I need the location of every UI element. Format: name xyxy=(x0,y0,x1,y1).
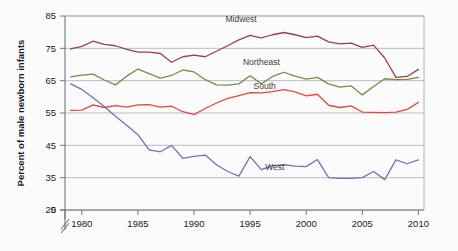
x-tick-label-2005: 2005 xyxy=(352,218,373,229)
y-tick-label-45: 45 xyxy=(45,140,56,151)
series-line-south xyxy=(71,90,419,115)
y-tick-label-55: 55 xyxy=(45,107,56,118)
series-line-west xyxy=(71,84,419,180)
series-label-south: South xyxy=(254,81,276,91)
y-tick-label-25: 25 xyxy=(45,204,56,215)
x-tick-label-1985: 1985 xyxy=(127,218,148,229)
x-tick-label-2000: 2000 xyxy=(296,218,317,229)
chart-container: 0253545556575851980198519901995200020052… xyxy=(0,0,458,251)
y-tick-label-65: 65 xyxy=(45,75,56,86)
gridlines-group xyxy=(65,16,424,210)
y-axis-title-group: Percent of male newborn infants xyxy=(15,40,26,187)
x-tick-label-1990: 1990 xyxy=(183,218,204,229)
x-tick-label-2010: 2010 xyxy=(408,218,429,229)
series-label-northeast: Northeast xyxy=(243,57,280,67)
data-series-group xyxy=(71,32,419,179)
line-chart: 0253545556575851980198519901995200020052… xyxy=(0,0,458,251)
series-label-midwest: Midwest xyxy=(226,14,258,24)
y-tick-label-85: 85 xyxy=(45,10,56,21)
series-label-west: West xyxy=(265,162,285,172)
y-axis-title: Percent of male newborn infants xyxy=(15,40,26,187)
tick-labels-group: 0253545556575851980198519901995200020052… xyxy=(45,10,429,229)
y-tick-label-75: 75 xyxy=(45,43,56,54)
x-tick-label-1995: 1995 xyxy=(240,218,261,229)
y-tick-label-35: 35 xyxy=(45,172,56,183)
x-tick-label-1980: 1980 xyxy=(71,218,92,229)
series-line-northeast xyxy=(71,69,419,95)
series-line-midwest xyxy=(71,32,419,77)
